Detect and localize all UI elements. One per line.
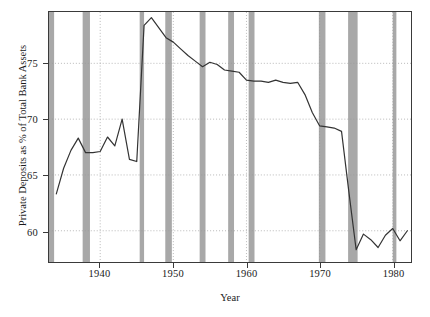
y-tick-mark bbox=[43, 232, 48, 233]
recession-band bbox=[165, 12, 172, 262]
chart-figure: 60657075 19401950196019701980 Private De… bbox=[0, 0, 430, 317]
x-tick-label: 1980 bbox=[383, 268, 405, 279]
y-tick-mark bbox=[43, 175, 48, 176]
x-tick-mark bbox=[394, 263, 395, 268]
recession-band bbox=[249, 12, 255, 262]
y-tick-label: 70 bbox=[27, 114, 38, 125]
recession-band bbox=[140, 12, 144, 262]
x-tick-mark bbox=[99, 263, 100, 268]
recession-band bbox=[228, 12, 234, 262]
y-tick-mark bbox=[43, 119, 48, 120]
y-tick-label: 65 bbox=[27, 170, 38, 181]
recession-band bbox=[83, 12, 90, 262]
x-tick-mark bbox=[173, 263, 174, 268]
recession-band bbox=[200, 12, 206, 262]
y-tick-mark bbox=[43, 63, 48, 64]
y-axis-title: Private Deposits as % of Total Bank Asse… bbox=[17, 36, 28, 236]
recession-band bbox=[49, 12, 54, 262]
recession-band bbox=[393, 12, 397, 262]
x-tick-label: 1940 bbox=[89, 268, 111, 279]
x-tick-mark bbox=[247, 263, 248, 268]
x-tick-mark bbox=[320, 263, 321, 268]
x-axis-title: Year bbox=[48, 292, 412, 303]
x-tick-label: 1950 bbox=[162, 268, 184, 279]
chart-svg bbox=[49, 12, 411, 262]
x-tick-label: 1960 bbox=[236, 268, 258, 279]
y-tick-label: 60 bbox=[27, 226, 38, 237]
x-tick-label: 1970 bbox=[309, 268, 331, 279]
recession-bands bbox=[49, 12, 396, 262]
plot-area bbox=[48, 11, 412, 263]
y-tick-label: 75 bbox=[27, 57, 38, 68]
